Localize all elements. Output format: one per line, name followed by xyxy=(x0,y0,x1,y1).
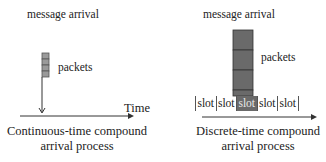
right-caption: Discrete-time compound arrival process xyxy=(190,124,326,154)
continuous-packet-stack xyxy=(42,53,49,77)
slot-5: slot xyxy=(278,96,299,111)
time-axis-label: Time xyxy=(124,101,150,116)
slot-4: slot xyxy=(258,96,279,111)
left-caption: Continuous-time compound arrival process xyxy=(3,124,151,154)
discrete-packet-stack xyxy=(233,30,253,96)
right-caption-line2: arrival process xyxy=(190,139,326,154)
discrete-time-axis-arrow xyxy=(202,114,317,120)
right-caption-line1: Discrete-time compound xyxy=(190,124,326,139)
left-packets-label: packets xyxy=(58,61,92,73)
right-message-arrival-label: message arrival xyxy=(203,8,275,20)
left-caption-line2: arrival process xyxy=(3,139,151,154)
message-arrival-arrow xyxy=(39,77,45,113)
slot-3-active: slot xyxy=(237,96,258,111)
right-packets-label: packets xyxy=(261,51,295,63)
slot-2: slot xyxy=(217,96,238,111)
slot-1: slot xyxy=(196,96,217,111)
time-axis-arrow xyxy=(20,113,134,119)
left-caption-line1: Continuous-time compound xyxy=(3,124,151,139)
slot-row: slot slot slot slot slot xyxy=(195,96,299,111)
left-message-arrival-label: message arrival xyxy=(27,8,99,20)
